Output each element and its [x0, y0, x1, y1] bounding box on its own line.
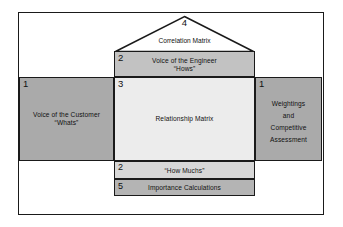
diagram-outer-frame: 4 Correlation Matrix 2 Voice of the Engi… [18, 12, 324, 215]
room-relationship-label: Relationship Matrix [115, 115, 254, 123]
room-correlation-matrix[interactable]: 4 Correlation Matrix [114, 15, 255, 53]
room-weightings-label-line3: Competitive [256, 124, 321, 132]
room-weightings-label-line2: and [256, 112, 321, 120]
room-voice-of-the-customer[interactable]: 1 Voice of the Customer “Whats” [19, 77, 114, 161]
room-customer-number: 1 [23, 78, 28, 89]
room-voice-of-the-engineer[interactable]: 2 Voice of the Engineer “Hows” [114, 51, 255, 77]
room-weightings-label-line1: Weightings [256, 100, 321, 108]
room-importance-label: Importance Calculations [115, 184, 254, 192]
room-correlation-number: 4 [114, 17, 255, 28]
room-weightings-label-line4: Assessment [256, 136, 321, 144]
room-weightings-competitive-assessment[interactable]: 1 Weightings and Competitive Assessment [255, 77, 322, 161]
room-relationship-number: 3 [118, 78, 123, 89]
room-engineer-label-line2: “Hows” [115, 65, 254, 73]
room-relationship-matrix[interactable]: 3 Relationship Matrix [114, 77, 255, 161]
room-correlation-label: Correlation Matrix [114, 37, 255, 45]
room-weightings-number: 1 [259, 78, 264, 89]
room-how-muchs[interactable]: 2 “How Muchs” [114, 161, 255, 179]
room-customer-label-line2: “Whats” [20, 119, 113, 127]
room-how-muchs-label: “How Muchs” [115, 167, 254, 175]
diagram-canvas: 4 Correlation Matrix 2 Voice of the Engi… [0, 0, 343, 227]
room-importance-calculations[interactable]: 5 Importance Calculations [114, 179, 255, 196]
